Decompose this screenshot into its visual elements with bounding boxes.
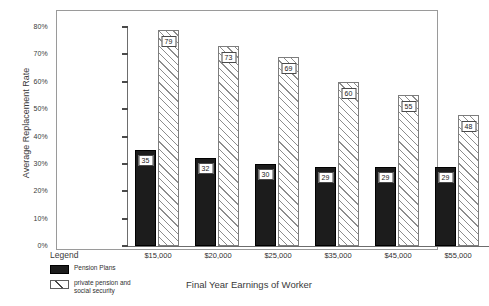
- legend-label-pension-plans: Pension Plans: [74, 264, 116, 272]
- legend: Legend Pension Plans private pension and…: [50, 250, 220, 299]
- bar-pension-plans: 32: [195, 158, 216, 246]
- bar-pension-plans: 29: [375, 167, 396, 246]
- x-axis-tick-label: $25,000: [264, 251, 291, 260]
- y-axis-tick-label: 70%: [8, 50, 48, 57]
- y-axis-title: Average Replacement Rate: [21, 53, 31, 193]
- bar-value-label: 35: [138, 155, 153, 166]
- bar-pension-plans: 30: [255, 164, 276, 246]
- bar-private-pension-social-security: 60: [338, 82, 359, 246]
- bar-value-label: 32: [198, 163, 213, 174]
- x-axis-line: [127, 246, 489, 247]
- bar-value-label: 69: [281, 63, 296, 74]
- x-axis-tick-label: $35,000: [324, 251, 351, 260]
- bar-pension-plans: 29: [435, 167, 456, 246]
- y-axis-tick-label: 80%: [8, 23, 48, 30]
- bar-value-label: 29: [438, 172, 453, 183]
- bar-value-label: 60: [341, 88, 356, 99]
- legend-label-line1: private pension and: [74, 279, 131, 286]
- plot-area: 357932733069296029552948: [128, 27, 488, 246]
- y-axis-tick-label: 20%: [8, 187, 48, 194]
- bar-group: 3069: [255, 27, 299, 246]
- x-axis-tick-label: $45,000: [384, 251, 411, 260]
- y-axis-tick-label: 60%: [8, 78, 48, 85]
- bar-value-label: 29: [378, 172, 393, 183]
- x-axis-title: Final Year Earnings of Worker: [186, 279, 312, 290]
- bar-value-label: 55: [401, 101, 416, 112]
- legend-swatch-solid-icon: [50, 265, 69, 274]
- bar-group: 2948: [435, 27, 479, 246]
- bar-private-pension-social-security: 55: [398, 95, 419, 246]
- bar-value-label: 73: [221, 52, 236, 63]
- bar-group: 2960: [315, 27, 359, 246]
- x-axis-tick-label: $55,000: [444, 251, 471, 260]
- y-axis-tick-label: 40%: [8, 133, 48, 140]
- legend-swatch-hatched-icon: [50, 280, 69, 289]
- y-axis-tick-label: 10%: [8, 215, 48, 222]
- bar-value-label: 79: [161, 36, 176, 47]
- bar-pension-plans: 29: [315, 167, 336, 246]
- y-axis-tick-label: 30%: [8, 160, 48, 167]
- legend-item-pension-plans: Pension Plans: [50, 264, 220, 274]
- legend-title: Legend: [50, 250, 220, 260]
- bar-value-label: 48: [461, 121, 476, 132]
- bar-group: 3579: [135, 27, 179, 246]
- bar-value-label: 29: [318, 172, 333, 183]
- bar-private-pension-social-security: 73: [218, 46, 239, 246]
- bar-private-pension-social-security: 48: [458, 115, 479, 246]
- bar-private-pension-social-security: 69: [278, 57, 299, 246]
- y-axis-tick-label: 0%: [8, 242, 48, 249]
- chart-frame: 0%10%20%30%40%50%60%70%80% 3579327330692…: [56, 10, 438, 250]
- bar-private-pension-social-security: 79: [158, 30, 179, 246]
- legend-label-private-pension-social-security: private pension and social security: [74, 279, 131, 294]
- y-axis-tick-label: 50%: [8, 105, 48, 112]
- legend-label-line2: social security: [74, 287, 115, 294]
- bar-pension-plans: 35: [135, 150, 156, 246]
- bar-group: 2955: [375, 27, 419, 246]
- bar-value-label: 30: [258, 169, 273, 180]
- bar-group: 3273: [195, 27, 239, 246]
